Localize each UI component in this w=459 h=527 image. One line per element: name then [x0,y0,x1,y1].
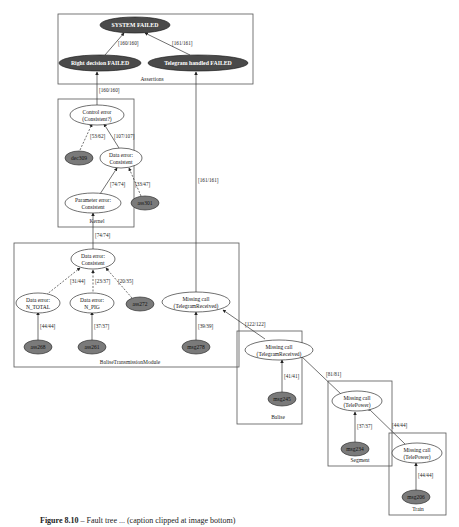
svg-text:Right decision FAILED: Right decision FAILED [71,60,129,66]
node-data-error-npig: Data error: N_PIG [70,293,114,313]
svg-text:(TelePower): (TelePower) [343,402,370,409]
svg-text:Parameter error:: Parameter error: [75,197,111,203]
svg-text:Control error: Control error [83,109,112,115]
svg-text:Data error:: Data error: [81,253,105,259]
svg-text:msg206: msg206 [407,494,425,500]
edge-label: [122/122] [245,321,266,328]
cluster-label-kernel: Kernel [90,218,105,224]
edge-label: [44/44] [418,472,434,479]
svg-text:Data error:: Data error: [80,297,104,303]
node-data-error-btm: Data error: Consistent [71,249,115,269]
svg-text:Consistent: Consistent [81,204,105,210]
node-missing-call-segment: Missing call (TelePower) [332,391,382,411]
edge-label: [37/37] [94,323,110,330]
edge-label: [161/161] [172,40,193,47]
edge-label: [31/44] [70,278,86,285]
node-missing-call-balise: Missing call (TelegramReceived) [245,340,313,360]
edge-label: [74/74] [110,181,126,188]
svg-text:Consistent: Consistent [109,159,133,165]
cluster-label-segment: Segment [350,457,370,463]
node-control-error: Control error (Consistent?) [70,105,124,125]
svg-text:Data error:: Data error: [109,152,133,158]
svg-text:Missing call: Missing call [182,296,210,302]
edge-label: [160/160] [99,87,120,94]
node-missing-call-btm: Missing call (TelegramReceived) [162,292,230,312]
svg-text:SYSTEM FAILED: SYSTEM FAILED [112,22,159,28]
caption-text: – Fault tree ... (caption clipped at ima… [79,516,236,525]
edge-label: [74/74] [95,232,111,239]
edge-label: [33/47] [135,181,151,188]
node-ass261: ass261 [78,340,106,354]
svg-text:msg278: msg278 [187,344,205,350]
figure-caption: Figure 8.10 – Fault tree ... (caption cl… [40,516,235,525]
node-data-error-ntotal: Data error: N_TOTAL [16,293,60,313]
svg-text:ass301: ass301 [138,200,153,206]
svg-text:(TelegramReceived): (TelegramReceived) [174,303,219,310]
edge-label: [44/44] [392,422,408,429]
edge-label: [44/44] [40,323,56,330]
svg-text:ass261: ass261 [85,344,100,350]
node-ass301: ass301 [131,196,159,210]
node-dec309: dec309 [65,151,93,165]
node-ass272: ass272 [126,297,154,311]
svg-text:ass272: ass272 [133,301,148,307]
edge-label: [160/160] [118,40,139,47]
node-ass268: ass268 [24,340,52,354]
node-msg206: msg206 [402,490,430,504]
node-msg278: msg278 [182,340,210,354]
svg-text:msg245: msg245 [273,396,291,402]
edge-label: [20/35] [118,278,134,285]
cluster-label-balise: Balise [271,414,285,420]
svg-text:(TelegramReceived): (TelegramReceived) [257,351,302,358]
cluster-label-assertions: Assertions [140,76,163,82]
svg-text:(Consistent?): (Consistent?) [82,116,111,123]
svg-text:Data error:: Data error: [26,297,50,303]
svg-text:N_PIG: N_PIG [84,304,100,310]
svg-text:Missing call: Missing call [403,447,431,453]
svg-text:Telegram handled FAILED: Telegram handled FAILED [164,60,232,66]
node-system-failed: SYSTEM FAILED [100,17,170,33]
cluster-label-train: Train [412,506,424,512]
fault-tree-diagram: Assertions Kernel BaliseTransmissionModu… [0,0,459,527]
edge-label: [53/62] [90,133,106,140]
svg-text:Missing call: Missing call [343,395,371,401]
node-parameter-error: Parameter error: Consistent [65,193,121,213]
node-right-decision-failed: Right decision FAILED [59,55,141,71]
svg-text:Consistent: Consistent [81,260,105,266]
node-missing-call-train: Missing call (TelePower) [392,443,442,463]
node-data-error-kernel: Data error: Consistent [100,148,142,168]
figure-number: Figure 8.10 [40,516,79,525]
edge-label: [23/37] [95,278,111,285]
edge-label: [37/37] [357,423,373,430]
edge-label: [107/107] [114,133,135,140]
svg-text:dec309: dec309 [71,155,87,161]
edge-label: [39/39] [198,323,214,330]
node-msg234: msg234 [341,442,369,456]
svg-text:ass268: ass268 [31,344,46,350]
svg-text:msg234: msg234 [346,446,364,452]
edge-label: [81/81] [326,371,342,378]
node-telegram-handled-failed: Telegram handled FAILED [148,55,248,71]
edge-label: [41/41] [284,373,300,380]
svg-text:N_TOTAL: N_TOTAL [26,304,51,310]
cluster-label-btm: BaliseTransmissionModule [100,359,161,365]
svg-text:Missing call: Missing call [265,344,293,350]
svg-text:(TelePower): (TelePower) [403,454,430,461]
node-msg245: msg245 [268,392,296,406]
edge-label: [161/161] [198,177,219,184]
